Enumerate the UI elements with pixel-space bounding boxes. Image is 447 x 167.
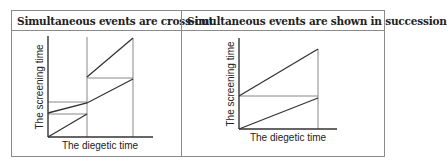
- axes: [239, 38, 337, 129]
- y-axis-label: The screening time: [225, 41, 236, 126]
- succession-diagram: The diegetic time The screening time: [225, 38, 337, 143]
- axes: [48, 36, 153, 137]
- y-axis-label: The screening time: [34, 44, 45, 129]
- guide-lines: [48, 37, 133, 137]
- x-axis-label: The diegetic time: [62, 140, 139, 151]
- event-lines: [48, 38, 133, 137]
- x-axis-label: The diegetic time: [250, 132, 327, 143]
- cross-cut-diagram: The diegetic time The screening time: [34, 36, 153, 151]
- event-lines: [239, 49, 318, 129]
